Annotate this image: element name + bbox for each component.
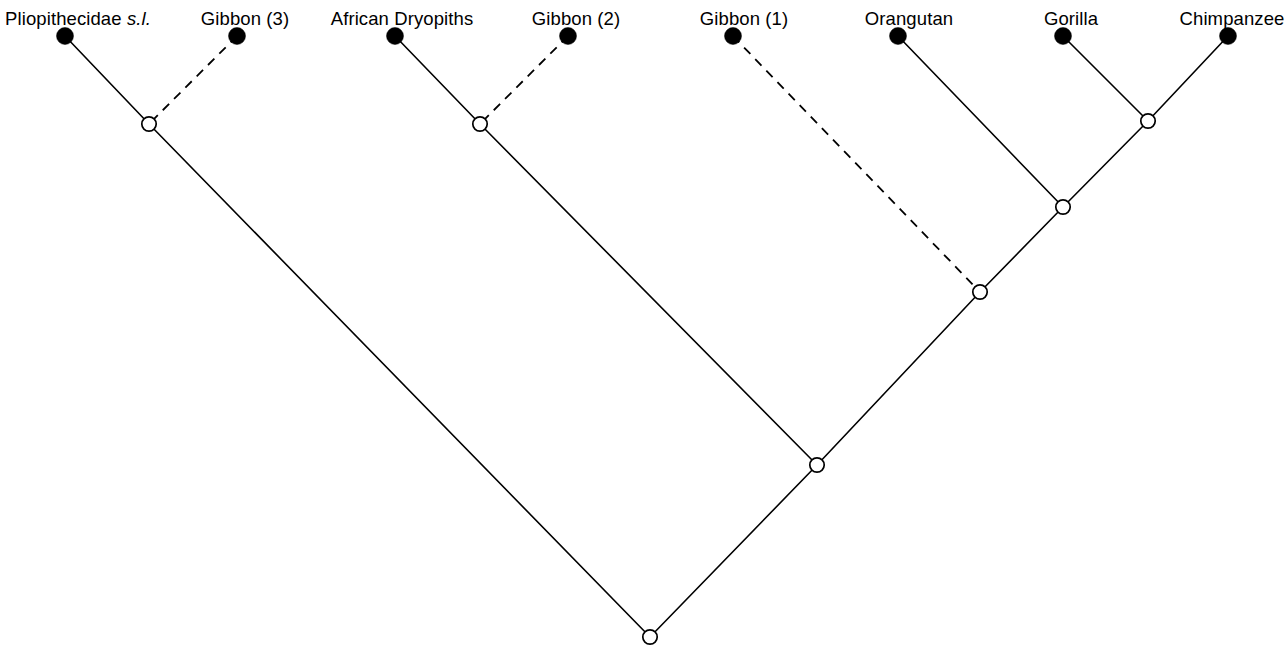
node-layer — [57, 28, 1237, 645]
taxon-label-italic-suffix: s.l. — [127, 8, 151, 29]
terminal-node-dot — [1055, 28, 1072, 45]
branch-solid — [480, 124, 817, 465]
internal-node-circle — [142, 117, 156, 131]
taxon-label-gibbon2: Gibbon (2) — [532, 8, 620, 30]
taxon-label-orangutan: Orangutan — [865, 8, 953, 30]
branch-layer — [65, 36, 1228, 637]
terminal-node-dot — [229, 28, 246, 45]
taxon-label-text: African Dryopiths — [331, 8, 474, 29]
taxon-label-text: Chimpanzee — [1180, 8, 1285, 29]
branch-solid — [980, 207, 1063, 292]
taxon-label-gibbon1: Gibbon (1) — [700, 8, 788, 30]
internal-node-circle — [973, 285, 987, 299]
taxon-label-gibbon3: Gibbon (3) — [201, 8, 289, 30]
terminal-node-dot — [57, 28, 74, 45]
branch-dashed — [149, 36, 237, 124]
internal-node-circle — [810, 458, 824, 472]
branch-dashed — [480, 36, 568, 124]
branch-dashed — [733, 36, 980, 292]
branch-solid — [1063, 121, 1148, 207]
branch-solid — [149, 124, 650, 637]
terminal-node-dot — [1220, 28, 1237, 45]
cladogram-figure: Pliopithecidae s.l.Gibbon (3)African Dry… — [0, 0, 1286, 655]
taxon-label-text: Gibbon (2) — [532, 8, 620, 29]
internal-node-circle — [1056, 200, 1070, 214]
internal-node-circle — [643, 630, 657, 644]
terminal-node-dot — [560, 28, 577, 45]
internal-node-circle — [1141, 114, 1155, 128]
branch-solid — [650, 465, 817, 637]
taxon-label-text: Orangutan — [865, 8, 953, 29]
taxon-label-text: Gibbon (3) — [201, 8, 289, 29]
terminal-node-dot — [725, 28, 742, 45]
taxon-label-pliopithecidae: Pliopithecidae s.l. — [5, 8, 151, 30]
taxon-label-text: Pliopithecidae — [5, 8, 127, 29]
branch-solid — [1063, 36, 1148, 121]
taxon-label-gorilla: Gorilla — [1044, 8, 1098, 30]
branch-solid — [898, 36, 1063, 207]
terminal-node-dot — [890, 28, 907, 45]
branch-solid — [1148, 36, 1228, 121]
terminal-node-dot — [387, 28, 404, 45]
taxon-label-chimpanzee: Chimpanzee — [1180, 8, 1285, 30]
taxon-label-text: Gorilla — [1044, 8, 1098, 29]
branch-solid — [817, 292, 980, 465]
cladogram-canvas — [0, 0, 1286, 655]
branch-solid — [65, 36, 149, 124]
taxon-label-text: Gibbon (1) — [700, 8, 788, 29]
internal-node-circle — [473, 117, 487, 131]
branch-solid — [395, 36, 480, 124]
taxon-label-african_dryopiths: African Dryopiths — [331, 8, 474, 30]
